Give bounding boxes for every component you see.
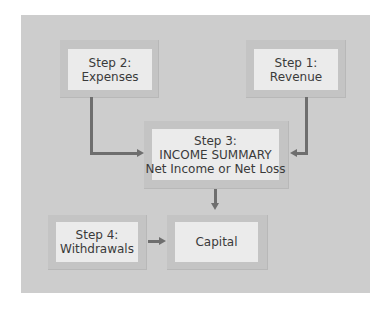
arrow-step2-vertical (90, 97, 93, 155)
arrowhead-left-icon (290, 149, 297, 157)
arrow-step1-horizontal (296, 152, 308, 155)
capital-name: Capital (195, 235, 237, 249)
arrow-step3-vertical (214, 189, 217, 204)
arrow-step1-vertical (305, 97, 308, 155)
step2-name: Expenses (81, 70, 138, 84)
arrow-step2-horizontal (90, 152, 138, 155)
capital-box: Capital (175, 222, 258, 262)
step4-name: Withdrawals (60, 242, 134, 256)
arrowhead-right-icon (137, 149, 144, 157)
step2-expenses-box: Step 2: Expenses (68, 49, 152, 90)
step3-subtitle: Net Income or Net Loss (145, 162, 285, 176)
step1-label: Step 1: (275, 56, 318, 70)
step4-label: Step 4: (76, 228, 119, 242)
step3-label: Step 3: (194, 134, 237, 148)
step3-name: INCOME SUMMARY (159, 148, 271, 162)
arrowhead-down-icon (211, 203, 219, 210)
step3-income-summary-box: Step 3: INCOME SUMMARY Net Income or Net… (152, 129, 279, 180)
step2-label: Step 2: (89, 56, 132, 70)
step1-revenue-box: Step 1: Revenue (254, 49, 338, 90)
step4-withdrawals-box: Step 4: Withdrawals (56, 222, 138, 262)
arrowhead-right-icon (159, 237, 166, 245)
step1-name: Revenue (270, 70, 322, 84)
